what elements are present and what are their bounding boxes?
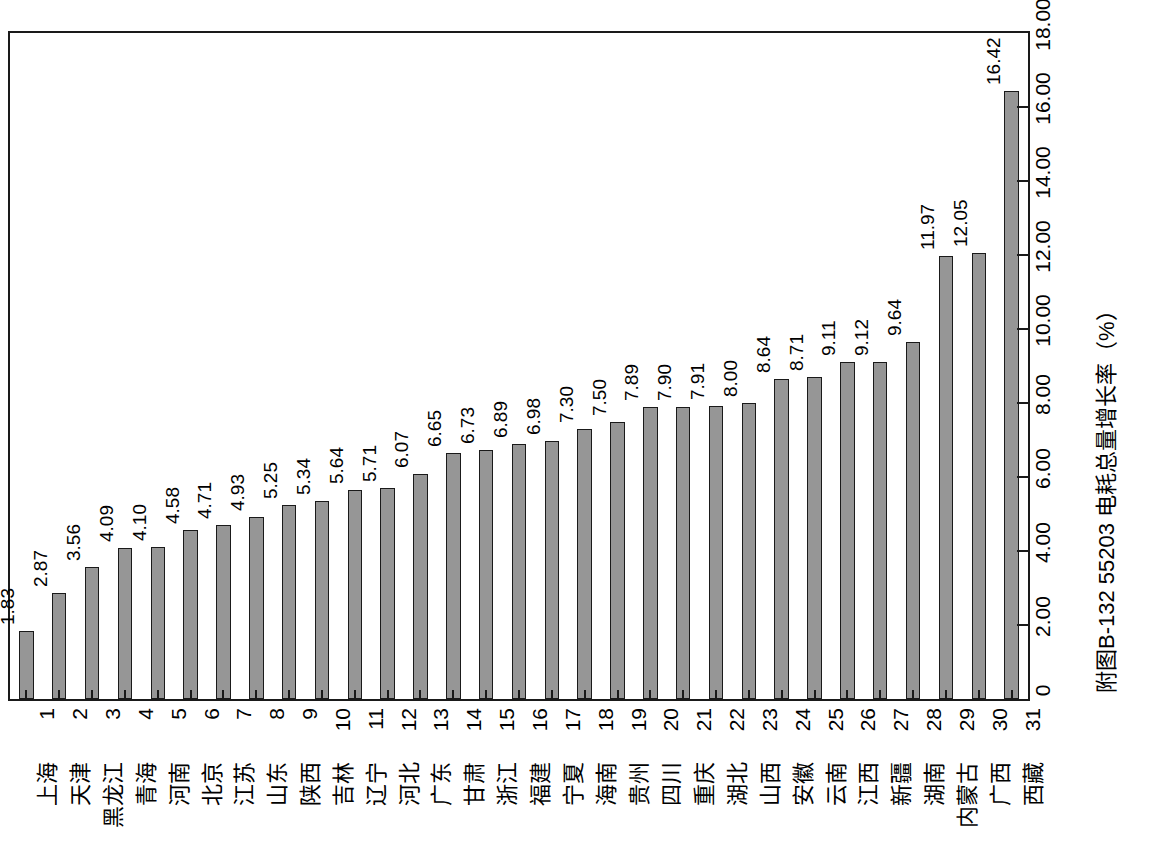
value-axis-label: 18.00 [1032, 0, 1053, 51]
bar-北京: 4.58 [183, 33, 197, 699]
value-axis-label: 2.00 [1032, 596, 1053, 637]
value-axis-label: 6.00 [1032, 448, 1053, 489]
bar-浙江: 6.73 [479, 33, 493, 699]
bar-rect [348, 490, 362, 699]
bar-rect [709, 406, 723, 699]
bar-value-label: 5.34 [294, 458, 313, 495]
bar-value-label: 8.64 [754, 336, 773, 373]
bar-rect [774, 379, 788, 699]
category-tick [58, 690, 60, 699]
category-label-河北: 12河北 [371, 706, 404, 841]
bar-rect [873, 362, 887, 699]
bar-rect [972, 253, 986, 699]
value-axis-label: 8.00 [1032, 374, 1053, 415]
category-label-江苏: 7江苏 [207, 706, 240, 841]
bar-广东: 6.07 [413, 33, 427, 699]
bar-江苏: 4.71 [216, 33, 230, 699]
category-tick [912, 690, 914, 699]
category-tick [748, 690, 750, 699]
value-axis-tick [1017, 402, 1028, 404]
category-tick [617, 690, 619, 699]
category-label-内蒙古: 29内蒙古 [929, 706, 962, 841]
category-name: 西藏 [1023, 762, 1045, 806]
axis-caption: 附图B-132 55203 电耗总量增长率（%） [1082, 31, 1132, 701]
bar-河北: 5.71 [380, 33, 394, 699]
bar-value-label: 9.11 [819, 320, 838, 356]
bar-rect [118, 548, 132, 699]
bar-value-label: 9.12 [852, 319, 871, 356]
category-tick [485, 690, 487, 699]
category-label-青海: 4青海 [109, 706, 142, 841]
category-label-四川: 20四川 [634, 706, 667, 841]
category-tick [584, 690, 586, 699]
bar-rect [52, 593, 66, 699]
chart-figure: 1.832.873.564.094.104.584.714.935.255.34… [0, 0, 1149, 841]
category-label-浙江: 15浙江 [470, 706, 503, 841]
bar-rect [315, 501, 329, 699]
bar-value-label: 6.73 [458, 407, 477, 444]
category-tick [354, 690, 356, 699]
category-tick [25, 690, 27, 699]
bar-rect [19, 631, 33, 699]
value-axis-tick [1017, 254, 1028, 256]
value-axis-label: 10.00 [1032, 294, 1053, 347]
category-label-云南: 25云南 [798, 706, 831, 841]
bar-value-label: 6.65 [425, 410, 444, 447]
category-tick [157, 690, 159, 699]
bar-value-label: 6.89 [491, 401, 510, 438]
category-tick [124, 690, 126, 699]
bar-江西: 9.11 [840, 33, 854, 699]
category-tick [518, 690, 520, 699]
category-tick [419, 690, 421, 699]
bar-rect [249, 517, 263, 699]
category-tick [387, 690, 389, 699]
bar-rect [807, 377, 821, 699]
value-axis-label: 4.00 [1032, 522, 1053, 563]
bar-value-label: 4.58 [163, 487, 182, 524]
bar-rect [545, 441, 559, 699]
category-label-山西: 23山西 [732, 706, 765, 841]
bar-rect [479, 450, 493, 699]
bar-辽宁: 5.64 [348, 33, 362, 699]
category-label-山东: 8山东 [240, 706, 273, 841]
category-label-安徽: 24安徽 [765, 706, 798, 841]
value-axis-label: 16.00 [1032, 72, 1053, 125]
category-tick [288, 690, 290, 699]
bar-value-label: 16.42 [984, 38, 1003, 86]
bar-value-label: 4.09 [97, 505, 116, 542]
bar-rect [906, 342, 920, 699]
bar-甘肃: 6.65 [446, 33, 460, 699]
bar-新疆: 9.12 [873, 33, 887, 699]
category-label-广东: 13广东 [404, 706, 437, 841]
bar-value-label: 4.10 [130, 504, 149, 541]
bar-天津: 2.87 [52, 33, 66, 699]
bar-rect [413, 474, 427, 699]
bar-value-label: 8.71 [787, 334, 806, 371]
category-label-福建: 16福建 [503, 706, 536, 841]
category-axis: 1上海2天津3黑龙江4青海5河南6北京7江苏8山东9陕西10吉林11辽宁12河北… [10, 706, 1028, 841]
value-axis-tick [1017, 624, 1028, 626]
category-label-辽宁: 11辽宁 [338, 706, 371, 841]
category-tick [255, 690, 257, 699]
bar-value-label: 12.05 [951, 200, 970, 248]
category-label-重庆: 21重庆 [667, 706, 700, 841]
bar-rect [840, 362, 854, 699]
bar-湖南: 9.64 [906, 33, 920, 699]
bar-value-label: 1.83 [0, 588, 17, 625]
category-tick [649, 690, 651, 699]
category-tick [879, 690, 881, 699]
bar-rect [577, 429, 591, 699]
bar-value-label: 4.93 [228, 474, 247, 511]
value-axis-tick [1017, 180, 1028, 182]
bar-青海: 4.09 [118, 33, 132, 699]
bars-container: 1.832.873.564.094.104.584.714.935.255.34… [10, 33, 1028, 699]
category-tick [846, 690, 848, 699]
category-label-北京: 6北京 [174, 706, 207, 841]
bar-黑龙江: 3.56 [85, 33, 99, 699]
category-label-黑龙江: 3黑龙江 [76, 706, 109, 841]
bar-value-label: 7.91 [688, 363, 707, 400]
bar-rect [446, 453, 460, 699]
category-index: 31 [1022, 708, 1043, 731]
category-label-上海: 1上海 [10, 706, 43, 841]
category-label-广西: 30广西 [962, 706, 995, 841]
